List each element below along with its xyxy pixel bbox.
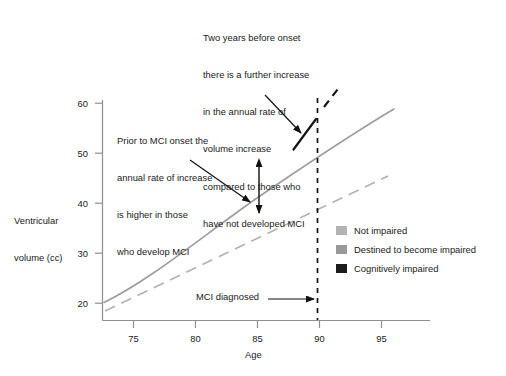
annotation-two-years-before-onset: Two years before onset there is a furthe… [203,7,309,255]
y-tick-label-30: 30 [66,248,88,259]
legend-swatch-not-impaired [336,226,347,235]
y-tick-label-40: 40 [66,198,88,209]
annotation-top-line-3: in the annual rate of [203,106,309,118]
legend-label-not-impaired: Not impaired [354,225,407,236]
x-tick-label-80: 80 [184,333,208,344]
annotation-top-line-2: there is a further increase [203,69,309,81]
legend-label-destined-impaired: Destined to become impaired [354,244,476,255]
legend-item-cognitively-impaired: Cognitively impaired [336,259,476,278]
y-tick-label-20: 20 [66,298,88,309]
y-axis-title-line-2: volume (cc) [14,252,62,264]
series-cognitively-impaired-projected [324,85,341,107]
legend-item-not-impaired: Not impaired [336,221,476,240]
y-tick-label-50: 50 [66,148,88,159]
annotation-top-line-1: Two years before onset [203,32,309,44]
x-tick-label-90: 90 [308,333,332,344]
annotation-left-line-1: Prior to MCI onset the [117,135,212,147]
annotation-top-line-4: volume increase [203,143,309,155]
legend-label-cognitively-impaired: Cognitively impaired [354,263,438,274]
x-axis-ticks [134,321,382,329]
figure-container: Two years before onset there is a furthe… [0,0,506,376]
legend-swatch-cognitively-impaired [336,264,347,273]
y-axis-ticks [95,103,103,303]
annotation-left-line-4: who develop MCI [117,246,212,258]
annotation-left-line-2: annual rate of increase [117,172,212,184]
legend-item-destined-impaired: Destined to become impaired [336,240,476,259]
x-tick-label-75: 75 [122,333,146,344]
annotation-prior-to-mci-onset: Prior to MCI onset the annual rate of in… [117,110,212,284]
y-axis-title: Ventricular volume (cc) [14,190,62,289]
chart-legend: Not impaired Destined to become impaired… [336,221,476,278]
x-tick-label-95: 95 [370,333,394,344]
x-tick-label-85: 85 [246,333,270,344]
annotation-top-line-6: have not developed MCI [203,218,309,230]
x-axis-title: Age [245,349,262,360]
annotation-left-line-3: is higher in those [117,209,212,221]
y-tick-label-60: 60 [66,98,88,109]
annotation-mci-diagnosed-label: MCI diagnosed [196,291,259,302]
y-axis-title-line-1: Ventricular [14,215,62,227]
annotation-top-line-5: compared to those who [203,181,309,193]
legend-swatch-destined-impaired [336,245,347,254]
